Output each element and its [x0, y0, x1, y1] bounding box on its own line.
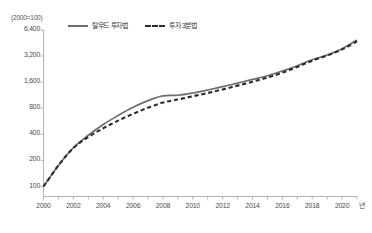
x-axis-tick-label: 2000	[36, 203, 50, 210]
x-axis-tick-label: 2014	[245, 203, 259, 210]
x-axis-tick-label: 2010	[186, 203, 200, 210]
x-axis-tick-label: 2012	[215, 203, 229, 210]
x-axis-tick-label: 2002	[66, 203, 80, 210]
x-axis-tick-label: 2008	[156, 203, 170, 210]
chart-container: (2000=100) 탈무드 투자법 투자 3분법 6,4003,2001,60…	[0, 0, 372, 233]
x-axis-tick-label: 2020	[335, 203, 349, 210]
x-axis-tick-labels: 2000200220042006200820102012201420162018…	[0, 0, 372, 233]
x-axis-tick-label: 2006	[126, 203, 140, 210]
x-axis-tick-label: 2016	[275, 203, 289, 210]
x-axis-tick-label: 2004	[96, 203, 110, 210]
x-axis-tick-label: 2018	[305, 203, 319, 210]
x-axis-unit-label: 년	[359, 203, 365, 210]
